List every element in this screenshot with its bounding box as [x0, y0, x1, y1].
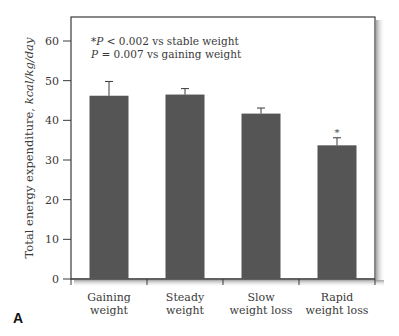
- y-axis: 0102030405060: [45, 35, 71, 286]
- x-label-line1: Gaining: [87, 291, 131, 304]
- y-tick-label: 0: [52, 273, 59, 286]
- x-label-line1: Steady: [166, 291, 205, 304]
- x-axis-labels: GainingweightSteadyweightSlowweight loss…: [87, 291, 369, 317]
- annotation-line-2: P = 0.007 vs gaining weight: [90, 48, 242, 60]
- y-tick-label: 40: [45, 114, 59, 127]
- bar-chart: 0102030405060 * *P < 0.002 vs stable wei…: [0, 0, 399, 336]
- x-label-line2: weight loss: [306, 304, 369, 317]
- bar: [90, 96, 129, 279]
- y-tick-label: 10: [45, 233, 59, 246]
- bar: [318, 145, 357, 279]
- bar: [166, 95, 205, 279]
- significance-marker: *: [335, 127, 340, 138]
- x-label-line2: weight: [166, 304, 205, 317]
- y-tick-label: 30: [45, 154, 59, 167]
- x-label-line2: weight: [90, 304, 129, 317]
- frame-shadow-right: [376, 20, 385, 282]
- y-axis-title: Total energy expenditure, kcal/kg/day: [22, 37, 36, 258]
- x-label-line1: Rapid: [321, 291, 354, 304]
- y-tick-label: 60: [45, 35, 59, 48]
- frame-shadow-bottom: [74, 280, 384, 287]
- annotation-line-1: *P < 0.002 vs stable weight: [91, 35, 239, 47]
- x-label-line2: weight loss: [230, 304, 293, 317]
- x-label-line1: Slow: [247, 291, 275, 304]
- panel-label: A: [13, 310, 23, 326]
- bar: [242, 114, 281, 279]
- y-tick-label: 50: [45, 75, 59, 88]
- y-tick-label: 20: [45, 194, 59, 207]
